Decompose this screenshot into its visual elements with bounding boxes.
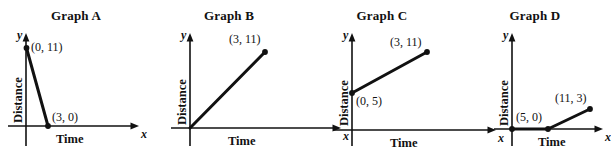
x-axis-arrow-d	[595, 125, 604, 132]
graph-c-plot	[306, 0, 458, 157]
data-point-d-0	[545, 126, 551, 132]
y-axis-arrow-a	[23, 33, 30, 42]
data-point-c-1	[424, 49, 430, 55]
y-axis-arrow-c	[349, 33, 356, 42]
data-segment-a	[27, 48, 49, 126]
y-axis-arrow-d	[509, 33, 516, 42]
graph-d-plot	[459, 0, 611, 157]
data-point-b-0	[262, 49, 268, 55]
graph-panel-a: Graph A y x Distance Time (0, 11) (3, 0)	[0, 0, 152, 157]
x-axis-arrow-a	[131, 122, 140, 129]
y-axis-letter-c: y	[343, 28, 348, 43]
y-axis-title-c: Distance	[337, 80, 352, 126]
y-axis-title-d: Distance	[497, 80, 512, 126]
x-axis-title-c: Time	[390, 136, 418, 151]
data-segment-b	[190, 52, 265, 128]
y-axis-title-b: Distance	[175, 79, 190, 125]
data-point-a-0	[24, 45, 30, 51]
data-segment-c	[352, 52, 427, 93]
point-label-a-0: (0, 11)	[31, 40, 63, 55]
data-point-d-origin	[509, 126, 515, 132]
point-label-c-1: (3, 11)	[390, 35, 422, 50]
graph-panel-c: Graph C y x Distance Time (0, 5) (3, 11)	[306, 0, 458, 157]
point-label-a-1: (3, 0)	[52, 110, 78, 125]
data-point-d-1	[587, 106, 593, 112]
y-axis-letter-d: y	[503, 28, 508, 43]
y-axis-letter-a: y	[17, 28, 22, 43]
point-label-d-0: (5, 0)	[516, 110, 542, 125]
x-axis-title-d: Time	[538, 135, 566, 150]
y-axis-letter-b: y	[181, 28, 186, 43]
y-axis-title-a: Distance	[11, 77, 26, 123]
x-axis-letter-d: x	[605, 130, 611, 145]
x-axis-title-b: Time	[228, 134, 256, 149]
graph-panel-b: Graph B y x Distance Time (3, 11)	[153, 0, 305, 157]
figure-canvas: Graph A y x Distance Time (0, 11) (3, 0)…	[0, 0, 611, 157]
data-segment-d-rise	[548, 109, 590, 129]
x-axis-letter-a: x	[141, 127, 147, 142]
point-label-b-0: (3, 11)	[229, 32, 261, 47]
graph-panel-d: Graph D y x Distance Time (5, 0) (11, 3)	[459, 0, 611, 157]
x-axis-title-a: Time	[56, 132, 84, 147]
data-point-a-1	[45, 123, 51, 129]
y-axis-arrow-b	[187, 33, 194, 42]
point-label-d-1: (11, 3)	[555, 91, 587, 106]
point-label-c-0: (0, 5)	[356, 94, 382, 109]
